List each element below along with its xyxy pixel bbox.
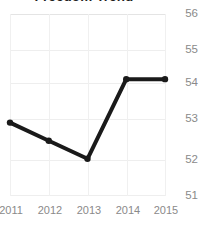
- data-point-2013: [84, 156, 90, 162]
- ytick-label-52: 52: [168, 154, 198, 166]
- plot-area: [10, 14, 165, 196]
- ytick-label-53: 53: [168, 113, 198, 125]
- ytick-label-55: 55: [168, 44, 198, 56]
- data-point-2014: [123, 76, 129, 82]
- xtick-label-2015: 2015: [144, 205, 188, 216]
- ytick-label-54: 54: [168, 77, 198, 89]
- xtick-label-2012: 2012: [28, 205, 72, 216]
- chart-container: Freedom Trend 56 55 54 53 52 51 2011 201…: [0, 0, 200, 225]
- ytick-label-56: 56: [168, 8, 198, 20]
- xtick-label-2013: 2013: [67, 205, 111, 216]
- ytick-label-51: 51: [168, 190, 198, 202]
- data-point-2012: [46, 138, 52, 144]
- series-markers: [7, 76, 168, 162]
- series-line: [10, 79, 165, 159]
- data-point-2011: [7, 119, 13, 125]
